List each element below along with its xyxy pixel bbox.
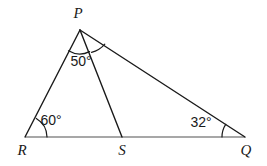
segment-ps: [80, 30, 122, 137]
angle-label-pqr: 32°: [190, 114, 211, 130]
vertex-label-p: P: [72, 5, 82, 21]
angle-label-rps: 50°: [70, 53, 91, 69]
segment-pq: [80, 30, 245, 137]
vertex-label-s: S: [118, 142, 126, 158]
angle-label-prq: 60°: [40, 112, 61, 128]
geometry-diagram: P R S Q 50° 60° 32°: [0, 0, 267, 166]
vertex-label-q: Q: [241, 142, 252, 158]
vertex-label-r: R: [16, 142, 26, 158]
angle-arc-pqr: [222, 124, 226, 137]
geometry-canvas: P R S Q 50° 60° 32°: [0, 0, 267, 166]
